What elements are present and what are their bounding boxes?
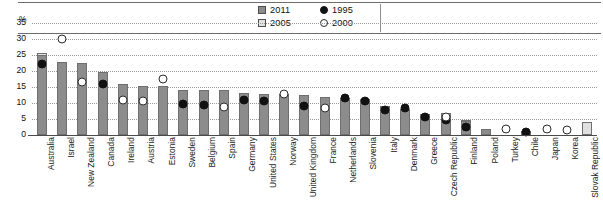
chart-container: 2011 2005 1995 2000 % 35302520151050 bbox=[0, 0, 603, 217]
x-tick-label-belgium: Belgium bbox=[207, 137, 217, 168]
legend-label-2011: 2011 bbox=[270, 5, 290, 15]
marker-2000 bbox=[441, 113, 450, 122]
bar-2011 bbox=[158, 86, 168, 135]
x-tick-label-ireland: Ireland bbox=[126, 137, 136, 163]
gridline-10 bbox=[32, 103, 597, 104]
x-tick-label-turkey: Turkey bbox=[510, 137, 520, 163]
bar-2011 bbox=[178, 90, 188, 135]
x-tick-label-norway: Norway bbox=[288, 137, 298, 166]
x-tick-label-estonia: Estonia bbox=[167, 137, 177, 165]
bar-2011 bbox=[57, 62, 67, 135]
x-tick-label-poland: Poland bbox=[490, 137, 500, 163]
gridline-15 bbox=[32, 87, 597, 88]
bar-2011 bbox=[138, 86, 148, 135]
marker-2000 bbox=[320, 104, 329, 113]
marker-1995 bbox=[98, 79, 107, 88]
x-tick-label-netherlands: Netherlands bbox=[348, 137, 358, 183]
x-tick-label-slovenia: Slovenia bbox=[368, 137, 378, 170]
legend-swatch-2011-icon bbox=[258, 6, 266, 14]
marker-1995 bbox=[360, 96, 369, 105]
legend-item-2011: 2011 bbox=[258, 3, 291, 16]
bar-2011 bbox=[279, 94, 289, 135]
marker-2000 bbox=[280, 90, 289, 99]
plot-area: 35302520151050 bbox=[32, 23, 597, 135]
x-tick-label-slovak-republic: Slovak Republic bbox=[590, 137, 600, 198]
bar-2011 bbox=[340, 98, 350, 135]
marker-2000 bbox=[138, 96, 147, 105]
gridline-5 bbox=[32, 119, 597, 120]
marker-1995 bbox=[38, 59, 47, 68]
marker-2000 bbox=[542, 124, 551, 133]
x-tick-label-united-states: United States bbox=[268, 137, 278, 188]
legend-dot-1995-icon bbox=[320, 6, 328, 14]
x-tick-label-sweden: Sweden bbox=[187, 137, 197, 168]
x-tick-label-united-kingdom: United Kingdom bbox=[308, 137, 318, 197]
marker-1995 bbox=[401, 104, 410, 113]
bar-2005 bbox=[582, 122, 592, 135]
x-tick-label-korea: Korea bbox=[570, 137, 580, 160]
legend-item-1995: 1995 bbox=[320, 3, 353, 16]
marker-2000 bbox=[118, 96, 127, 105]
x-tick-label-austria: Austria bbox=[146, 137, 156, 163]
x-tick-label-chile: Chile bbox=[530, 137, 540, 156]
marker-2000 bbox=[562, 126, 571, 135]
marker-2000 bbox=[502, 124, 511, 133]
bar-2011 bbox=[118, 84, 128, 135]
x-tick-label-canada: Canada bbox=[106, 137, 116, 167]
x-tick-label-new-zealand: New Zealand bbox=[86, 137, 96, 187]
marker-1995 bbox=[300, 101, 309, 110]
bar-2011 bbox=[219, 90, 229, 135]
gridline-35 bbox=[32, 23, 597, 24]
marker-1995 bbox=[421, 113, 430, 122]
bar-2011 bbox=[199, 90, 209, 135]
x-tick-label-finland: Finland bbox=[469, 137, 479, 165]
gridline-30 bbox=[32, 39, 597, 40]
x-tick-label-italy: Italy bbox=[389, 137, 399, 153]
x-tick-label-australia: Australia bbox=[46, 137, 56, 170]
bar-2011 bbox=[77, 63, 87, 135]
marker-1995 bbox=[239, 96, 248, 105]
gridline-25 bbox=[32, 55, 597, 56]
marker-1995 bbox=[340, 94, 349, 103]
marker-1995 bbox=[199, 100, 208, 109]
legend-label-1995: 1995 bbox=[332, 5, 353, 15]
marker-2000 bbox=[219, 103, 228, 112]
x-tick-label-spain: Spain bbox=[227, 137, 237, 159]
marker-2000 bbox=[159, 75, 168, 84]
x-tick-label-germany: Germany bbox=[247, 137, 257, 172]
bar-2011 bbox=[320, 97, 330, 135]
x-tick-label-france: France bbox=[328, 137, 338, 163]
x-tick-label-czech-republic: Czech Republic bbox=[449, 137, 459, 196]
marker-1995 bbox=[461, 122, 470, 131]
gridline-20 bbox=[32, 71, 597, 72]
marker-1995 bbox=[179, 99, 188, 108]
x-tick-label-greece: Greece bbox=[429, 137, 439, 165]
marker-1995 bbox=[381, 106, 390, 115]
x-axis-labels: AustraliaIsraelNew ZealandCanadaIrelandA… bbox=[32, 137, 597, 217]
marker-2000 bbox=[78, 78, 87, 87]
marker-1995 bbox=[260, 96, 269, 105]
x-tick-label-denmark: Denmark bbox=[409, 137, 419, 171]
marker-2000 bbox=[58, 35, 67, 44]
x-tick-label-japan: Japan bbox=[550, 137, 560, 160]
x-tick-label-israel: Israel bbox=[66, 137, 76, 158]
